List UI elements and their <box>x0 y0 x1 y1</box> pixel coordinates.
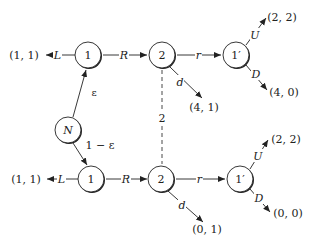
node-label-bottom-2: 2 <box>158 173 165 186</box>
node-label-top-1prime: 1′ <box>231 49 241 62</box>
action-label-bottom-L: L <box>57 173 65 186</box>
node-label-nature: N <box>62 124 73 137</box>
action-label-top-L: L <box>53 49 61 62</box>
action-label-top-D: D <box>251 68 261 81</box>
probability-top: ε <box>91 87 96 98</box>
action-label-top-U: U <box>250 29 260 42</box>
action-label-bottom-d: d <box>178 199 185 212</box>
node-label-bottom-1prime: 1′ <box>235 173 245 186</box>
payoff-top-d: (4, 1) <box>189 101 219 114</box>
action-label-bottom-R: R <box>121 173 130 186</box>
payoff-bottom-d: (0, 1) <box>192 223 222 236</box>
node-label-top-1: 1 <box>85 49 92 62</box>
action-label-bottom-r: r <box>197 173 203 186</box>
probability-bottom: 1 − ε <box>86 139 115 152</box>
edge-n-to-top-1 <box>73 70 86 117</box>
action-label-top-r: r <box>196 49 202 62</box>
information-set-label: 2 <box>159 112 166 125</box>
edge-top-d <box>170 67 202 98</box>
payoff-bottom-D: (0, 0) <box>273 207 303 220</box>
game-tree: 1 2 1′ N 1 2 1′ L R r d U D L R r d U D … <box>0 0 313 248</box>
node-label-bottom-1: 1 <box>88 173 95 186</box>
action-label-top-d: d <box>176 76 183 89</box>
payoff-top-L: (1, 1) <box>9 49 39 62</box>
node-label-top-2: 2 <box>159 49 166 62</box>
action-label-top-R: R <box>119 49 128 62</box>
payoff-bottom-L: (1, 1) <box>11 173 41 186</box>
action-label-bottom-U: U <box>253 150 263 163</box>
payoff-bottom-U: (2, 2) <box>271 133 301 146</box>
action-label-bottom-D: D <box>254 192 264 205</box>
payoff-top-D: (4, 0) <box>269 86 299 99</box>
payoff-top-U: (2, 2) <box>267 11 297 24</box>
